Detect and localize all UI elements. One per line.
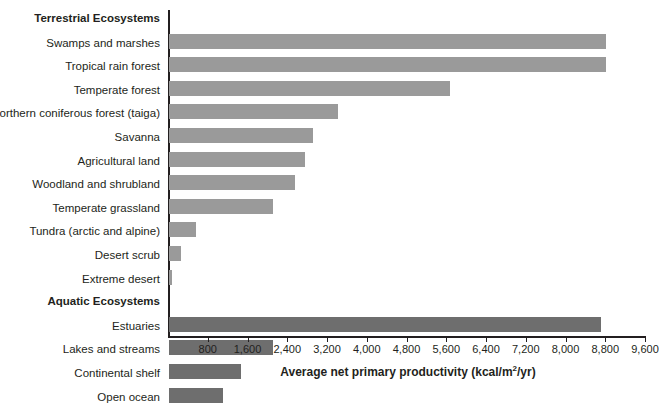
x-axis-tick [645,337,646,342]
x-axis-tick [208,337,209,342]
category-label: Northern coniferous forest (taiga) [0,107,160,119]
bar [169,152,305,167]
category-label: Estuaries [0,320,160,332]
x-axis-tick-label: 800 [199,343,217,355]
category-label: Tropical rain forest [0,60,160,72]
x-axis-tick-label: 1,600 [234,343,262,355]
bar [169,199,273,214]
bar [169,104,338,119]
x-axis-tick-label: 6,400 [472,343,500,355]
category-label: Continental shelf [0,367,160,379]
x-axis-tick [287,337,288,342]
category-label: Temperate grassland [0,202,160,214]
x-axis-tick [526,337,527,342]
superscript-two: 2 [513,364,517,373]
x-axis-tick [248,337,249,342]
category-label: Woodland and shrubland [0,178,160,190]
x-axis-tick-label: 5,600 [432,343,460,355]
bar [169,128,313,143]
bar [169,81,450,96]
x-axis-tick-label: 9,600 [631,343,659,355]
x-axis-tick-label: 8,000 [552,343,580,355]
category-label: Lakes and streams [0,343,160,355]
x-axis-tick-label: 3,200 [313,343,341,355]
bar [169,270,172,285]
x-axis-tick [407,337,408,342]
bar [169,175,295,190]
category-label: Temperate forest [0,84,160,96]
bar [169,222,196,237]
x-axis-tick-label: 2,400 [273,343,301,355]
bar [169,57,606,72]
category-label: Desert scrub [0,249,160,261]
bar [169,388,223,403]
category-label: Swamps and marshes [0,37,160,49]
x-axis-tick [605,337,606,342]
category-label: Agricultural land [0,155,160,167]
category-label: Extreme desert [0,273,160,285]
x-axis-title: Average net primary productivity (kcal/m… [168,364,648,379]
group-heading: Terrestrial Ecosystems [0,12,160,24]
x-axis-tick-label: 4,000 [353,343,381,355]
bar [169,317,601,332]
plot-area: 8001,6002,4003,2004,0004,8005,6006,4007,… [168,0,648,337]
category-label-column: Terrestrial EcosystemsSwamps and marshes… [0,0,166,330]
category-label: Tundra (arctic and alpine) [0,225,160,237]
bar [169,246,181,261]
x-axis-tick-label: 7,200 [512,343,540,355]
x-axis-tick [446,337,447,342]
category-label: Open ocean [0,391,160,403]
x-axis-tick-label: 4,800 [393,343,421,355]
x-axis-tick-label: 8,800 [591,343,619,355]
x-axis-tick [327,337,328,342]
group-heading: Aquatic Ecosystems [0,295,160,307]
category-label: Savanna [0,131,160,143]
x-axis-tick [566,337,567,342]
bar [169,34,606,49]
x-axis-tick [486,337,487,342]
x-axis-tick [367,337,368,342]
